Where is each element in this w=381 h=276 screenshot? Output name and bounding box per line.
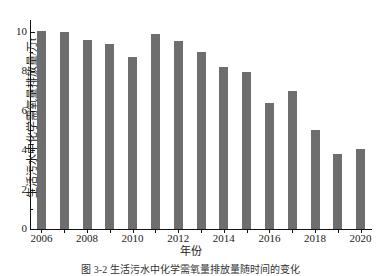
x-tick-mark xyxy=(155,229,156,233)
x-tick-label: 2016 xyxy=(249,232,289,244)
x-tick-mark xyxy=(110,229,111,233)
x-tick-mark xyxy=(292,229,293,233)
bar xyxy=(265,103,274,229)
y-tick-mark xyxy=(30,229,35,230)
bar xyxy=(288,91,297,229)
x-tick-label: 2018 xyxy=(295,232,335,244)
x-tick-label: 2014 xyxy=(204,232,244,244)
x-tick-label: 2008 xyxy=(67,232,107,244)
bar xyxy=(105,44,114,229)
bar xyxy=(37,31,46,229)
x-tick-label: 2012 xyxy=(158,232,198,244)
x-tick-mark xyxy=(201,229,202,233)
bar xyxy=(174,41,183,229)
bar-series xyxy=(30,20,372,229)
y-axis-title: 生活污水中化学需氧量排放量/万t xyxy=(26,38,38,198)
x-axis-title: 年份 xyxy=(0,245,381,257)
bar xyxy=(333,154,342,229)
bar xyxy=(151,34,160,229)
y-axis-title-wrap: 生活污水中化学需氧量排放量/万t xyxy=(0,0,14,250)
bar xyxy=(83,40,92,229)
x-tick-label: 2020 xyxy=(341,232,381,244)
x-tick-label: 2010 xyxy=(113,232,153,244)
x-tick-label: 2006 xyxy=(21,232,61,244)
bar xyxy=(356,149,365,229)
x-tick-mark xyxy=(247,229,248,233)
bar xyxy=(60,32,69,229)
bar xyxy=(311,130,320,229)
bar xyxy=(242,72,251,229)
x-tick-mark xyxy=(64,229,65,233)
bar xyxy=(128,57,137,229)
x-tick-mark xyxy=(338,229,339,233)
bar xyxy=(219,67,228,229)
bar xyxy=(197,52,206,229)
figure-caption: 图 3-2 生活污水中化学需氧量排放量随时间的变化 xyxy=(0,264,381,276)
